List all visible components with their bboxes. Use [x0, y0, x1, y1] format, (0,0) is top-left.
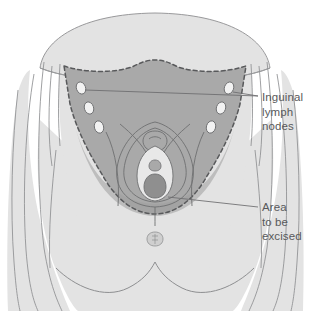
- anus: [147, 232, 163, 246]
- urethral-meatus: [149, 160, 161, 171]
- label-nodes-line-2: lymph: [262, 105, 303, 120]
- anatomy-illustration: [0, 0, 311, 311]
- vaginal-introitus: [144, 174, 166, 198]
- label-excised-line-3: excised: [262, 229, 302, 244]
- label-nodes-line-1: Inguinal: [262, 90, 303, 105]
- label-excised-line-2: to be: [262, 215, 302, 230]
- medical-illustration-figure: Inguinal lymph nodes Area to be excised: [0, 0, 311, 311]
- label-nodes-line-3: nodes: [262, 119, 303, 134]
- label-excised-line-1: Area: [262, 200, 302, 215]
- label-area-to-be-excised: Area to be excised: [262, 200, 302, 244]
- label-inguinal-lymph-nodes: Inguinal lymph nodes: [262, 90, 303, 134]
